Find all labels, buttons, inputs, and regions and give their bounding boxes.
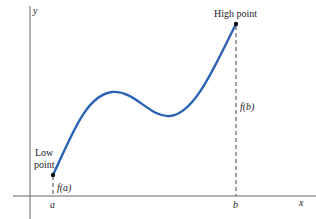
x-axis-label: x — [299, 197, 303, 208]
f-b-label: f(b) — [240, 101, 254, 112]
high-point-label: High point — [214, 8, 257, 19]
f-a-label: f(a) — [57, 182, 71, 193]
low-point-label-line2: point — [34, 159, 55, 170]
function-curve — [53, 24, 236, 175]
high-point-dot — [234, 22, 238, 26]
low-point-label-line1: Low — [35, 147, 53, 158]
a-tick-label: a — [50, 199, 55, 210]
y-axis-label: y — [33, 5, 37, 16]
diagram-canvas — [0, 0, 316, 219]
b-tick-label: b — [233, 199, 238, 210]
low-point-dot — [51, 173, 55, 177]
